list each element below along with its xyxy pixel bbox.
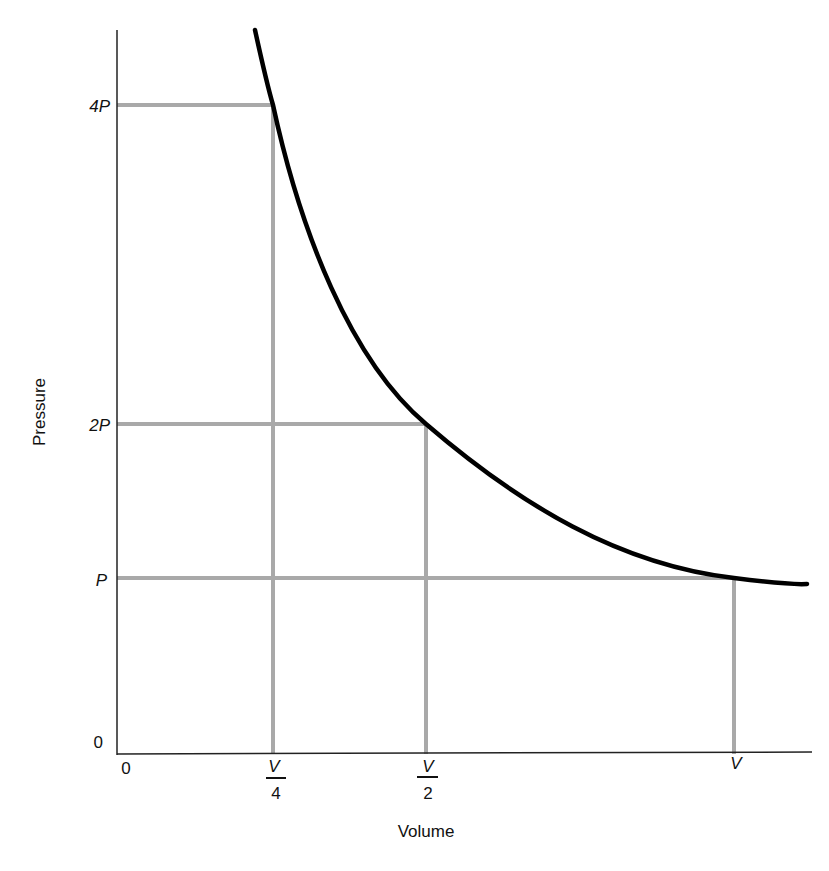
- y-axis-title: Pressure: [30, 378, 49, 446]
- y-tick-p: P: [96, 571, 108, 590]
- x-tick-v2-numerator: V: [422, 757, 435, 776]
- x-tick-v4-denominator: 4: [271, 784, 280, 803]
- guide-lines: [117, 105, 734, 754]
- y-tick-2p: 2P: [88, 416, 110, 435]
- x-tick-v: V: [730, 754, 743, 773]
- x-tick-v4-numerator: V: [268, 757, 281, 776]
- isotherm-curve: [255, 30, 807, 584]
- y-tick-4p: 4P: [89, 97, 110, 116]
- pressure-volume-chart: 4P 2P P 0 0 V 4 V 2 V Volume Pressure: [0, 0, 829, 871]
- x-tick-v2-denominator: 2: [423, 784, 432, 803]
- x-axis-title: Volume: [398, 822, 455, 841]
- y-origin-label: 0: [94, 733, 103, 752]
- x-axis: [117, 752, 812, 754]
- x-origin-label: 0: [121, 759, 130, 778]
